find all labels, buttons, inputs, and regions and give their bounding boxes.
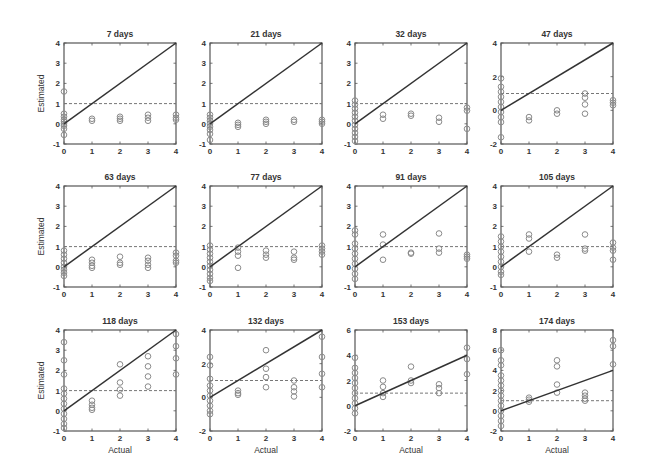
y-tick-label: 4 — [202, 326, 207, 335]
x-tick-label: 1 — [527, 434, 532, 443]
x-tick-label: 4 — [611, 290, 616, 299]
y-tick-label: 0 — [493, 106, 498, 115]
panel-title: 77 days — [250, 172, 281, 182]
panel-32-days: 32 days01234-101234 — [344, 29, 470, 156]
y-tick-label: 0 — [347, 263, 352, 272]
axes-frame — [210, 43, 322, 144]
axes-frame — [501, 330, 613, 431]
axes-frame — [64, 330, 176, 431]
data-point — [554, 111, 560, 117]
data-point — [582, 95, 588, 101]
y-tick-label: 1 — [202, 243, 207, 252]
axes-frame — [64, 43, 176, 144]
y-tick-label: 2 — [56, 79, 61, 88]
x-tick-label: 3 — [146, 290, 151, 299]
y-tick-label: -1 — [53, 283, 61, 292]
x-tick-label: 3 — [292, 290, 297, 299]
data-point — [582, 111, 588, 117]
x-tick-label: 2 — [264, 290, 269, 299]
x-tick-label: 2 — [409, 147, 414, 156]
y-tick-label: 2 — [202, 222, 207, 231]
y-tick-label: 0 — [202, 263, 207, 272]
data-point — [380, 232, 386, 238]
x-tick-label: 3 — [437, 290, 442, 299]
y-tick-label: 0 — [56, 263, 61, 272]
x-tick-label: 0 — [208, 290, 213, 299]
data-point — [235, 253, 241, 259]
x-axis-label: Actual — [545, 445, 569, 455]
panel-title: 91 days — [395, 172, 426, 182]
data-point — [263, 347, 269, 353]
axes-frame — [210, 186, 322, 287]
x-tick-label: 4 — [174, 147, 179, 156]
y-tick-label: 4 — [347, 182, 352, 191]
y-tick-label: -1 — [53, 427, 61, 436]
data-point — [263, 384, 269, 390]
panel-title: 63 days — [104, 172, 135, 182]
x-tick-label: 0 — [208, 434, 213, 443]
x-tick-label: 4 — [465, 290, 470, 299]
y-axis-label: Estimated — [36, 74, 46, 112]
x-tick-label: 4 — [465, 147, 470, 156]
data-point — [117, 393, 123, 399]
y-tick-label: 2 — [202, 79, 207, 88]
identity-line — [355, 43, 467, 124]
data-point — [380, 257, 386, 263]
data-point — [380, 378, 386, 384]
y-tick-label: 0 — [202, 393, 207, 402]
y-tick-label: 8 — [493, 326, 498, 335]
identity-line — [210, 330, 322, 397]
y-tick-label: -1 — [199, 283, 207, 292]
y-tick-label: 4 — [56, 182, 61, 191]
x-tick-label: 4 — [611, 434, 616, 443]
x-tick-label: 1 — [90, 147, 95, 156]
identity-line — [64, 186, 176, 267]
y-tick-label: -2 — [490, 140, 498, 149]
y-tick-label: -1 — [344, 283, 352, 292]
data-point — [380, 384, 386, 390]
x-tick-label: 1 — [381, 434, 386, 443]
y-tick-label: 0 — [493, 263, 498, 272]
panel-title: 32 days — [395, 29, 426, 39]
x-tick-label: 0 — [62, 434, 67, 443]
scatter-panel-grid: 7 days01234-101234Estimated21 days01234-… — [0, 0, 647, 475]
x-tick-label: 3 — [146, 147, 151, 156]
data-point — [117, 387, 123, 393]
data-point — [380, 116, 386, 122]
y-tick-label: 1 — [202, 100, 207, 109]
data-point — [554, 382, 560, 388]
x-tick-label: 2 — [555, 434, 560, 443]
y-tick-label: 1 — [347, 100, 352, 109]
data-point — [235, 265, 241, 271]
x-tick-label: 4 — [320, 290, 325, 299]
identity-line — [355, 355, 467, 406]
data-point — [582, 102, 588, 108]
x-tick-label: 2 — [264, 147, 269, 156]
y-tick-label: 6 — [493, 346, 498, 355]
x-tick-label: 0 — [499, 290, 504, 299]
y-tick-label: 3 — [202, 202, 207, 211]
identity-line — [64, 43, 176, 124]
data-point — [526, 118, 532, 124]
x-tick-label: 0 — [353, 434, 358, 443]
y-tick-label: 0 — [347, 402, 352, 411]
panel-174-days: 174 days01234-202468Actual — [490, 316, 616, 455]
data-point — [554, 364, 560, 370]
x-axis-label: Actual — [399, 445, 423, 455]
data-point — [554, 358, 560, 364]
x-tick-label: 2 — [555, 147, 560, 156]
y-tick-label: -1 — [199, 140, 207, 149]
y-tick-label: 2 — [347, 222, 352, 231]
x-tick-label: 1 — [236, 147, 241, 156]
x-tick-label: 4 — [465, 434, 470, 443]
data-point — [526, 249, 532, 255]
x-tick-label: 2 — [118, 434, 123, 443]
y-tick-label: 0 — [347, 120, 352, 129]
data-point — [117, 362, 123, 368]
x-tick-label: 3 — [437, 147, 442, 156]
y-tick-label: 0 — [56, 407, 61, 416]
x-tick-label: 1 — [90, 290, 95, 299]
x-tick-label: 0 — [353, 147, 358, 156]
axes-frame — [64, 186, 176, 287]
y-tick-label: 0 — [493, 407, 498, 416]
